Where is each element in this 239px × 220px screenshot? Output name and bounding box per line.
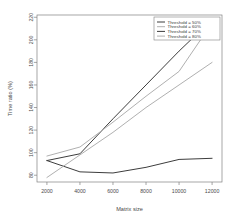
series-line-3 (47, 62, 212, 177)
chart-container: 8010012014016018020022020004000600080001… (0, 0, 239, 220)
x-tick-label: 12000 (205, 188, 220, 194)
y-tick-label: 220 (28, 13, 34, 22)
line-chart: 8010012014016018020022020004000600080001… (0, 0, 239, 220)
y-tick-label: 140 (28, 103, 34, 112)
x-tick-label: 4000 (74, 188, 86, 194)
x-tick-label: 2000 (41, 188, 53, 194)
y-tick-label: 80 (28, 172, 34, 178)
x-tick-label: 6000 (107, 188, 119, 194)
y-axis-title: Time ratio (%) (7, 81, 13, 116)
y-tick-label: 120 (28, 126, 34, 135)
x-tick-label: 8000 (140, 188, 152, 194)
x-tick-label: 10000 (172, 188, 187, 194)
y-tick-label: 200 (28, 35, 34, 44)
x-axis-title: Matrix size (116, 206, 143, 212)
y-tick-label: 180 (28, 58, 34, 67)
y-tick-label: 100 (28, 148, 34, 157)
y-tick-label: 160 (28, 81, 34, 90)
series-line-0 (47, 20, 212, 161)
legend-label-3: Threshold = 80% (168, 34, 201, 39)
